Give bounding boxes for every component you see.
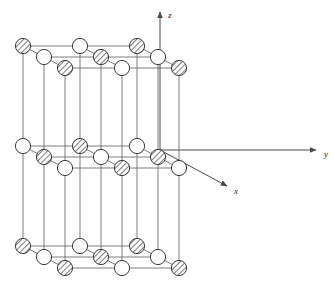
- atom-hatched: [129, 238, 144, 253]
- atom-open: [129, 138, 144, 153]
- atom-hatched: [15, 238, 30, 253]
- lattice-diagram: zyx: [0, 0, 334, 300]
- atom-open: [72, 238, 87, 253]
- atom-open: [114, 60, 129, 75]
- y-axis-label: y: [323, 149, 328, 159]
- atom-hatched: [57, 60, 72, 75]
- atom-hatched: [57, 260, 72, 275]
- atom-hatched: [36, 149, 51, 164]
- atom-open: [15, 138, 30, 153]
- axes-group: [160, 12, 316, 186]
- atom-open: [150, 249, 165, 264]
- atom-hatched: [150, 149, 165, 164]
- atom-open: [114, 260, 129, 275]
- atom-hatched: [171, 60, 186, 75]
- atom-open: [93, 149, 108, 164]
- atom-open: [150, 49, 165, 64]
- crystal-lattice-figure: zyx: [0, 0, 334, 300]
- axis-labels-group: zyx: [167, 10, 328, 196]
- atom-open: [36, 49, 51, 64]
- atom-hatched: [114, 160, 129, 175]
- atom-open: [57, 160, 72, 175]
- atom-hatched: [93, 249, 108, 264]
- x-axis-label: x: [233, 186, 238, 196]
- atom-hatched: [171, 260, 186, 275]
- atom-hatched: [129, 38, 144, 53]
- atom-open: [36, 249, 51, 264]
- atom-open: [171, 160, 186, 175]
- z-axis-label: z: [167, 10, 172, 20]
- atom-hatched: [15, 38, 30, 53]
- atom-hatched: [72, 138, 87, 153]
- atom-open: [72, 38, 87, 53]
- atom-hatched: [93, 49, 108, 64]
